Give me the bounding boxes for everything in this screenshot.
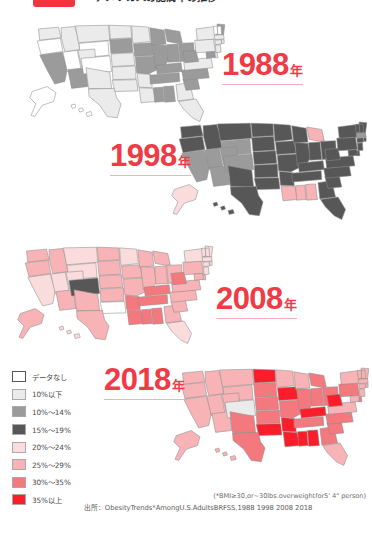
state-nd: [251, 123, 274, 137]
state-pa: [339, 383, 360, 397]
state-wi: [150, 28, 166, 46]
legend-swatch: [12, 459, 26, 470]
state-hi: [71, 104, 92, 117]
state-mn: [276, 370, 295, 388]
state-ct: [359, 384, 366, 389]
year-suffix: 年: [178, 154, 191, 169]
header-strip: アメリカ人の肥満率の推移: [0, 0, 372, 11]
year-underline: [216, 318, 297, 319]
state-md: [194, 274, 203, 281]
state-mt: [217, 123, 251, 141]
legend-label: 35%以上: [32, 495, 62, 505]
footnote: (*BMI≥30,or~30lbs.overweightfor5' 4" per…: [66, 492, 366, 500]
state-in: [167, 44, 180, 62]
state-sd: [98, 260, 121, 275]
state-wi: [294, 372, 310, 390]
state-in: [309, 142, 322, 160]
page-title: アメリカ人の肥満率の推移: [95, 0, 335, 4]
us-map-2008: [14, 246, 214, 356]
state-mt: [75, 25, 109, 43]
state-in: [155, 266, 168, 284]
state-tn: [138, 295, 168, 306]
state-ks: [112, 66, 136, 80]
state-ms: [298, 431, 309, 446]
state-sd: [254, 382, 277, 397]
legend-swatch: [12, 494, 26, 505]
state-wi: [292, 126, 308, 144]
state-tx: [231, 186, 264, 215]
year-number: 1988: [222, 47, 289, 82]
state-nj: [359, 389, 365, 397]
state-sd: [252, 136, 275, 151]
state-mi: [309, 373, 327, 387]
legend-swatch: [12, 477, 26, 488]
state-ak: [30, 87, 56, 117]
map-panel-1998: [168, 122, 368, 232]
state-mn: [120, 248, 139, 266]
state-ne: [255, 397, 279, 411]
state-fl: [179, 99, 204, 122]
legend-label: 10%〜14%: [32, 407, 71, 417]
infographic-root: アメリカ人の肥満率の推移 1988年 1998年 2008年 2018年 データ…: [0, 0, 372, 533]
state-ia: [122, 265, 143, 279]
state-ri: [364, 138, 367, 142]
state-wa: [27, 249, 50, 262]
state-ms: [142, 309, 153, 324]
state-wa: [183, 371, 206, 384]
state-nd: [97, 247, 120, 261]
state-nh: [361, 370, 365, 379]
state-nh: [217, 26, 221, 35]
state-wa: [39, 27, 62, 40]
state-ri: [366, 384, 369, 388]
state-fl: [167, 321, 192, 344]
map-panel-2018: [170, 368, 370, 478]
state-nj: [215, 45, 221, 53]
state-ok: [112, 80, 138, 92]
state-ia: [278, 387, 299, 401]
state-fl: [323, 443, 348, 466]
state-pa: [195, 39, 216, 53]
legend-item: データなし: [12, 368, 104, 386]
legend-label: データなし: [32, 372, 67, 382]
state-ct: [215, 40, 222, 45]
state-sd: [110, 38, 133, 53]
state-ma: [358, 379, 368, 384]
state-ma: [356, 133, 366, 138]
state-md: [348, 150, 357, 157]
state-nh: [205, 248, 209, 257]
legend-label: 25%〜29%: [32, 460, 71, 470]
state-nh: [359, 124, 363, 133]
year-number: 2018: [104, 362, 171, 397]
state-ca: [184, 396, 212, 428]
legend-item: 30%〜35%: [12, 474, 104, 492]
state-mi: [307, 127, 325, 141]
year-label-2008: 2008年: [216, 281, 297, 319]
map-panel-1988: [26, 24, 226, 134]
state-md: [350, 396, 359, 403]
year-suffix: 年: [284, 297, 297, 312]
state-ne: [99, 275, 123, 289]
year-number: 2008: [216, 281, 283, 316]
state-ok: [256, 424, 282, 436]
state-ok: [254, 178, 280, 190]
legend-item: 20%〜24%: [12, 438, 104, 456]
state-pa: [337, 137, 358, 151]
state-ms: [154, 87, 165, 102]
state-ak: [18, 309, 44, 339]
legend-swatch: [12, 389, 26, 400]
state-ok: [100, 302, 126, 314]
year-label-1988: 1988年: [222, 47, 303, 85]
legend-swatch: [12, 424, 26, 435]
year-label-2018: 2018年: [104, 362, 185, 400]
state-ia: [276, 141, 297, 155]
state-ne: [253, 151, 277, 165]
header-badge: [33, 0, 75, 7]
state-al: [306, 184, 318, 200]
state-ct: [357, 138, 364, 143]
state-ms: [296, 185, 307, 200]
year-underline: [222, 84, 303, 85]
state-tn: [150, 73, 180, 84]
state-al: [308, 430, 320, 446]
state-mi: [153, 251, 171, 265]
state-ne: [111, 53, 135, 67]
